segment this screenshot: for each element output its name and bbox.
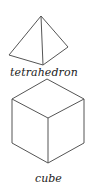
cube-top-inner-edges <box>12 99 84 118</box>
polyhedra-diagram <box>0 0 94 187</box>
cube-drawing <box>12 79 84 163</box>
tetrahedron-label: tetrahedron <box>10 66 78 79</box>
tetrahedron-outline <box>9 16 68 65</box>
cube-label: cube <box>35 172 62 185</box>
tetrahedron-drawing <box>9 16 68 65</box>
tetrahedron-front-edge <box>41 16 43 65</box>
